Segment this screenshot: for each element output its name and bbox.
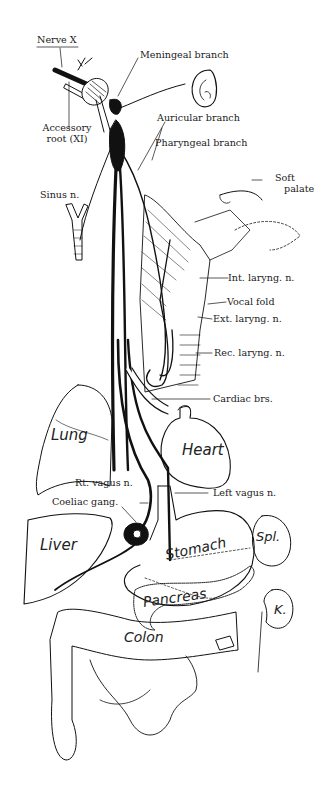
label-accessory-root-line1: Accessory xyxy=(43,122,92,133)
label-soft-palate-line2: palate xyxy=(275,183,314,194)
label-left-vagus-n: Left vagus n. xyxy=(213,487,276,498)
label-accessory-root: Accessory root (XI) xyxy=(39,122,95,144)
label-cardiac-brs: Cardiac brs. xyxy=(213,393,273,404)
label-int-laryng-n: Int. laryng. n. xyxy=(228,272,294,283)
vagus-trunk xyxy=(80,84,185,560)
label-accessory-root-line2: root (XI) xyxy=(46,133,87,144)
label-nerve-x: Nerve X xyxy=(37,34,77,45)
label-pharyngeal-branch: Pharyngeal branch xyxy=(155,137,247,148)
organ-label-kidney: K. xyxy=(274,603,287,617)
label-vocal-fold: Vocal fold xyxy=(227,296,275,307)
organ-label-spleen: Spl. xyxy=(256,530,280,544)
label-meningeal-branch: Meningeal branch xyxy=(140,49,229,60)
ear-drawing xyxy=(192,70,216,107)
nerve-x-root xyxy=(55,58,110,132)
label-auricular-branch: Auricular branch xyxy=(157,112,240,123)
label-soft-palate: Soft palate xyxy=(275,172,314,194)
label-ext-laryng-n: Ext. laryng. n. xyxy=(213,313,282,324)
liver-drawing xyxy=(24,514,112,604)
vagus-nerve-diagram: Nerve X Meningeal branch Auricular branc… xyxy=(0,0,330,787)
organ-label-liver: Liver xyxy=(40,538,77,552)
coeliac-ganglion xyxy=(55,523,148,590)
label-coeliac-gang: Coeliac gang. xyxy=(52,496,118,507)
organ-label-lung: Lung xyxy=(51,428,88,442)
label-soft-palate-line1: Soft xyxy=(275,172,295,183)
label-sinus-n: Sinus n. xyxy=(40,189,79,200)
label-rec-laryng-n: Rec. laryng. n. xyxy=(214,347,285,358)
organ-label-heart: Heart xyxy=(182,443,224,457)
label-rt-vagus-n: Rt. vagus n. xyxy=(75,477,133,488)
carotid-sinus-vessel xyxy=(66,204,88,260)
organ-label-colon: Colon xyxy=(124,630,164,644)
